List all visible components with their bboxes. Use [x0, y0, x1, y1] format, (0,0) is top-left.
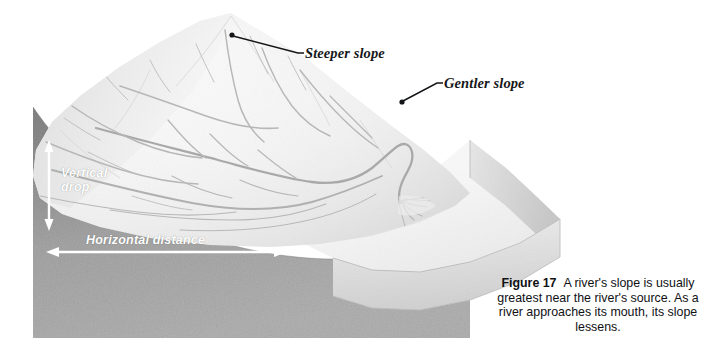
figure-17-river-slope-diagram: Steeper slope Gentler slope Vertical dro… — [0, 0, 706, 356]
callout-label-steeper-slope: Steeper slope — [305, 45, 385, 62]
measurement-label-horizontal-distance: Horizontal distance — [86, 233, 205, 247]
measurement-label-vertical-drop: Vertical drop — [61, 166, 123, 194]
callout-leader-gentler-slope — [399, 83, 443, 105]
figure-caption: Figure 17 A river's slope is usually gre… — [496, 276, 700, 334]
callout-line-gentler-slope — [403, 83, 443, 101]
callout-label-gentler-slope: Gentler slope — [444, 75, 525, 92]
figure-number: Figure 17 — [501, 276, 556, 290]
